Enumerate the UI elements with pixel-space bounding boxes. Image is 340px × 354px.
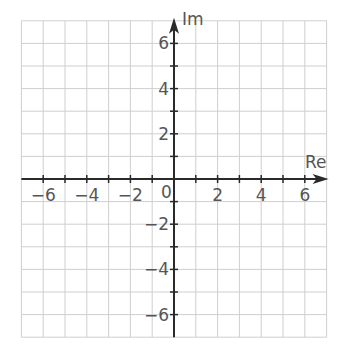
- y-tick-label: 6: [158, 33, 169, 53]
- y-tick-label: 2: [158, 124, 169, 144]
- x-tick-label: 4: [256, 185, 267, 205]
- y-tick-label: 4: [158, 79, 169, 99]
- imaginary-axis-label: Im: [182, 9, 204, 29]
- x-tick-label: −4: [74, 185, 99, 205]
- y-tick-label: −4: [144, 259, 169, 279]
- complex-plane-diagram: −6−4−2246642−2−4−6 Re Im 0: [0, 0, 340, 354]
- y-tick-label: −2: [144, 214, 169, 234]
- x-tick-label: −2: [118, 185, 143, 205]
- real-axis-label: Re: [305, 152, 327, 172]
- origin-label: 0: [161, 182, 172, 202]
- x-tick-label: 6: [299, 185, 310, 205]
- x-tick-label: −6: [31, 185, 56, 205]
- y-tick-label: −6: [144, 305, 169, 325]
- x-tick-label: 2: [212, 185, 223, 205]
